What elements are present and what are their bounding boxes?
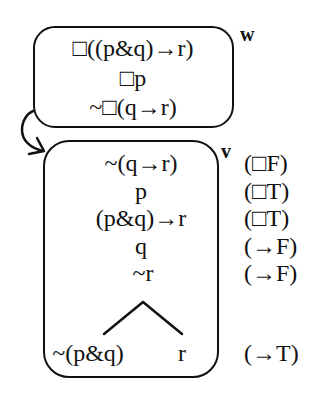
rule-label-2: (□T) (244, 178, 289, 204)
world-w-formula-3: ~□(q→r) (89, 94, 176, 120)
rule-label-4: (→F) (244, 233, 297, 259)
world-w-label: w (240, 24, 254, 44)
rule-label-1: (□F) (244, 150, 288, 176)
rule-label-3: (□T) (244, 205, 289, 231)
world-v-label: v (221, 141, 231, 161)
world-w-formula-2: □p (120, 65, 147, 91)
world-v-formula-1: ~(q→r) (105, 150, 178, 176)
world-v-formula-4: q (135, 233, 147, 259)
branch-left-formula: ~(p&q) (52, 340, 124, 366)
branch-right-formula: r (178, 340, 186, 366)
world-w-formula-1: □((p&q)→r) (72, 35, 193, 61)
rule-label-5: (→F) (244, 260, 297, 286)
world-v-formula-3: (p&q)→r (96, 205, 187, 231)
world-v-formula-5: ~r (133, 260, 154, 286)
rule-label-6: (→T) (244, 340, 299, 366)
world-v-formula-2: p (135, 178, 147, 204)
